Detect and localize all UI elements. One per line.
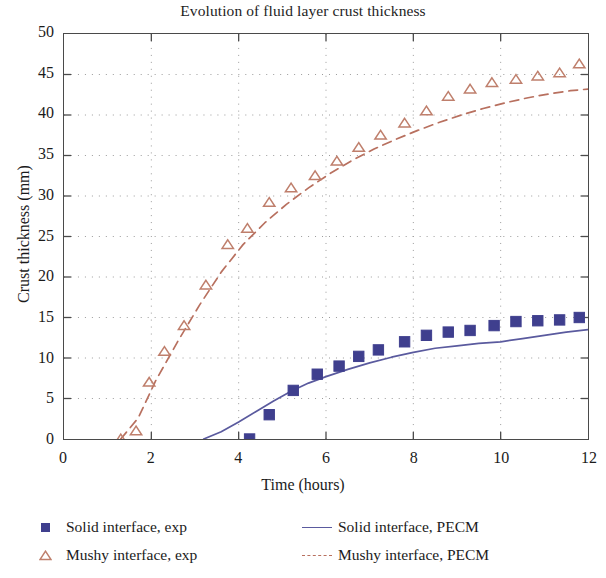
data-point-square bbox=[312, 369, 322, 379]
data-point-triangle bbox=[130, 426, 141, 435]
legend-entry[interactable]: Mushy interface, exp bbox=[28, 546, 197, 564]
x-axis-title: Time (hours) bbox=[0, 476, 606, 494]
data-point-triangle bbox=[532, 71, 543, 80]
data-point-square bbox=[489, 320, 499, 330]
data-point-square bbox=[399, 337, 409, 347]
data-point-square bbox=[334, 361, 344, 371]
data-point-triangle bbox=[574, 59, 585, 68]
data-point-square bbox=[443, 327, 453, 337]
series-layer bbox=[64, 34, 588, 439]
data-point-triangle bbox=[421, 106, 432, 115]
data-point-triangle bbox=[200, 280, 211, 289]
data-point-triangle bbox=[554, 68, 565, 77]
data-point-triangle bbox=[143, 377, 154, 386]
series-line bbox=[204, 330, 588, 439]
legend-dashed-line-icon bbox=[300, 555, 334, 556]
data-point-square bbox=[354, 351, 364, 361]
data-point-square bbox=[244, 434, 254, 439]
plot-area bbox=[63, 33, 589, 440]
data-point-square bbox=[574, 312, 584, 322]
legend-entry-label: Solid interface, PECM bbox=[338, 518, 479, 536]
data-point-triangle bbox=[264, 198, 275, 207]
data-point-triangle bbox=[486, 78, 497, 87]
data-point-square bbox=[533, 316, 543, 326]
legend-square-icon bbox=[28, 523, 62, 532]
x-tick-label: 4 bbox=[208, 449, 268, 467]
legend-entry-label: Mushy interface, exp bbox=[66, 546, 197, 564]
x-tick-label: 6 bbox=[296, 449, 356, 467]
data-point-triangle bbox=[375, 130, 386, 139]
legend-entry-label: Solid interface, exp bbox=[66, 518, 187, 536]
data-point-triangle bbox=[159, 347, 170, 356]
legend-entry-label: Mushy interface, PECM bbox=[338, 546, 489, 564]
data-point-triangle bbox=[353, 143, 364, 152]
chart-figure: Evolution of fluid layer crust thickness… bbox=[0, 0, 606, 578]
data-point-triangle bbox=[242, 224, 253, 233]
legend-solid-line-icon bbox=[300, 527, 334, 528]
series-line bbox=[121, 89, 588, 439]
data-point-square bbox=[465, 325, 475, 335]
data-point-triangle bbox=[443, 92, 454, 101]
x-tick-label: 10 bbox=[471, 449, 531, 467]
chart-title: Evolution of fluid layer crust thickness bbox=[0, 2, 606, 20]
data-point-triangle bbox=[399, 118, 410, 127]
data-point-triangle bbox=[309, 171, 320, 180]
legend-triangle-icon bbox=[28, 550, 62, 561]
data-point-triangle bbox=[285, 183, 296, 192]
data-point-triangle bbox=[464, 84, 475, 93]
data-point-triangle bbox=[510, 75, 521, 84]
chart-legend: Solid interface, expMushy interface, exp… bbox=[0, 516, 606, 576]
y-tick-label: 5 bbox=[0, 389, 54, 407]
legend-entry[interactable]: Solid interface, exp bbox=[28, 518, 187, 536]
y-axis-title: Crust thickness (mm) bbox=[15, 114, 33, 354]
data-point-triangle bbox=[178, 321, 189, 330]
x-tick-label: 0 bbox=[33, 449, 93, 467]
data-point-triangle bbox=[331, 156, 342, 165]
data-point-square bbox=[264, 410, 274, 420]
data-point-square bbox=[288, 385, 298, 395]
data-point-square bbox=[373, 345, 383, 355]
data-point-square bbox=[511, 316, 521, 326]
data-point-triangle bbox=[222, 240, 233, 249]
legend-entry[interactable]: Mushy interface, PECM bbox=[300, 546, 489, 564]
data-point-square bbox=[421, 330, 431, 340]
y-tick-label: 0 bbox=[0, 430, 54, 448]
x-tick-label: 8 bbox=[384, 449, 444, 467]
x-tick-label: 2 bbox=[121, 449, 181, 467]
y-tick-label: 50 bbox=[0, 23, 54, 41]
legend-entry[interactable]: Solid interface, PECM bbox=[300, 518, 479, 536]
x-tick-label: 12 bbox=[559, 449, 606, 467]
y-tick-label: 45 bbox=[0, 64, 54, 82]
data-point-square bbox=[554, 315, 564, 325]
